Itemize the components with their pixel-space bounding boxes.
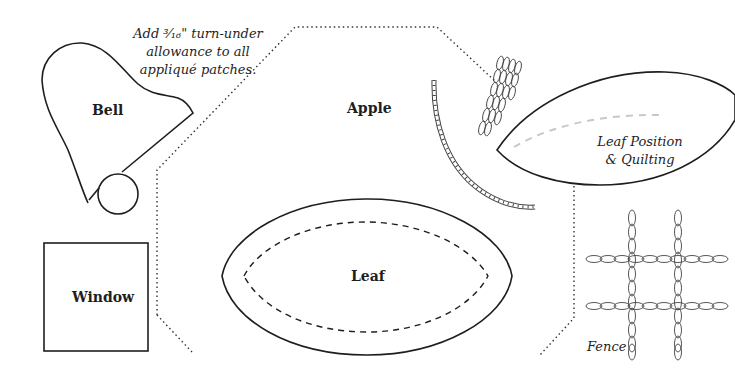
fence-label: Fence xyxy=(587,338,626,356)
bell-clapper xyxy=(98,174,138,214)
leaf-position-label: Leaf Position & Quilting xyxy=(585,133,695,169)
note-line-3: appliqué patches. xyxy=(128,61,268,79)
bell-label: Bell xyxy=(92,102,123,118)
leaf-label: Leaf xyxy=(351,268,385,284)
window-label: Window xyxy=(72,289,134,305)
apple-label: Apple xyxy=(347,100,392,116)
note-line-2: allowance to all xyxy=(128,43,268,61)
chain-stitch-cluster xyxy=(477,55,522,136)
leaf-position-line-2: & Quilting xyxy=(585,151,695,169)
pattern-diagram xyxy=(0,0,735,380)
leaf-position-line-1: Leaf Position xyxy=(585,133,695,151)
turn-under-note: Add ³⁄₁₆" turn-under allowance to all ap… xyxy=(128,25,268,79)
note-line-1: Add ³⁄₁₆" turn-under xyxy=(128,25,268,43)
